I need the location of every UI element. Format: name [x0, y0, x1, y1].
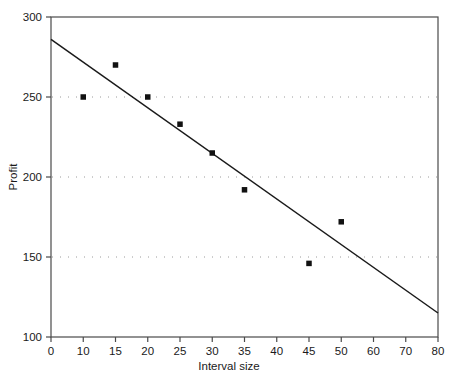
x-tick-label-80: 80 [432, 345, 445, 357]
data-point-marker [339, 219, 345, 225]
y-tick-label-300: 300 [23, 11, 42, 23]
y-tick-labels: 100150200250300 [23, 11, 42, 343]
x-tick-label-60: 60 [367, 345, 380, 357]
data-point-marker [113, 62, 119, 68]
x-tick-label-70: 70 [399, 345, 412, 357]
y-axis-ticks [46, 17, 51, 337]
x-tick-label-35: 35 [238, 345, 251, 357]
data-point-marker [242, 187, 248, 193]
data-point-marker [210, 150, 216, 156]
data-point-marker [145, 94, 151, 100]
x-tick-label-40: 40 [270, 345, 283, 357]
scatter-chart: 0101520253035404550607080 10015020025030… [0, 0, 455, 378]
x-tick-label-25: 25 [174, 345, 187, 357]
x-axis-ticks [51, 337, 438, 342]
x-tick-labels: 0101520253035404550607080 [48, 345, 445, 357]
x-tick-label-45: 45 [303, 345, 316, 357]
data-point-marker [81, 94, 87, 100]
x-tick-label-20: 20 [141, 345, 154, 357]
data-point-marker [177, 121, 183, 127]
x-tick-label-15: 15 [109, 345, 122, 357]
x-tick-label-30: 30 [206, 345, 219, 357]
y-tick-label-250: 250 [23, 91, 42, 103]
y-tick-label-150: 150 [23, 251, 42, 263]
x-axis-title: Interval size [198, 360, 259, 372]
y-axis-title: Profit [7, 163, 19, 191]
x-tick-label-10: 10 [77, 345, 90, 357]
x-tick-label-50: 50 [335, 345, 348, 357]
y-tick-label-100: 100 [23, 331, 42, 343]
chart-canvas: 0101520253035404550607080 10015020025030… [0, 0, 455, 378]
data-point-marker [306, 261, 312, 267]
y-tick-label-200: 200 [23, 171, 42, 183]
x-tick-label-0: 0 [48, 345, 54, 357]
